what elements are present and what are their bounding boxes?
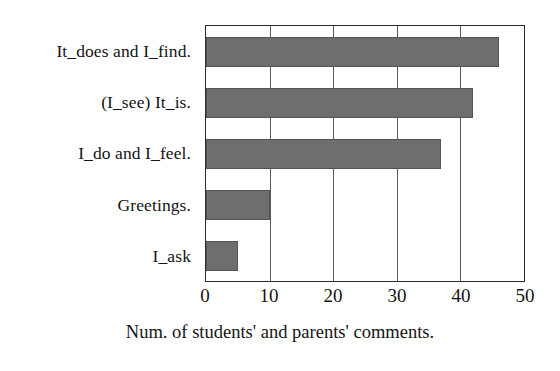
bar-slot — [206, 230, 524, 281]
category-tick: Greetings. — [0, 179, 200, 230]
category-tick: I_ask — [0, 231, 200, 282]
category-tick: It_does and I_find. — [0, 25, 200, 76]
bar-i-do-and-i-feel[interactable] — [206, 139, 441, 169]
category-label-i-see-it-is: (I_see) It_is. — [101, 93, 191, 111]
bar-slot — [206, 179, 524, 230]
value-tick-label: 40 — [452, 285, 471, 307]
value-tick-label: 30 — [388, 285, 407, 307]
category-axis: It_does and I_find. (I_see) It_is. I_do … — [0, 25, 200, 282]
category-label-i-ask: I_ask — [153, 247, 191, 265]
bar-greetings[interactable] — [206, 190, 270, 220]
bars-layer — [206, 26, 524, 281]
category-label-i-do-and-i-feel: I_do and I_feel. — [78, 144, 191, 162]
bar-chart-figure: It_does and I_find. (I_see) It_is. I_do … — [0, 0, 560, 371]
value-tick-label: 0 — [200, 285, 210, 307]
bar-i-see-it-is[interactable] — [206, 88, 473, 118]
value-axis-tick-labels: 01020304050 — [205, 285, 525, 311]
bar-i-ask[interactable] — [206, 241, 238, 271]
bar-slot — [206, 77, 524, 128]
category-tick: I_do and I_feel. — [0, 128, 200, 179]
category-tick: (I_see) It_is. — [0, 76, 200, 127]
plot-area — [205, 25, 525, 282]
value-tick-label: 50 — [516, 285, 535, 307]
bar-slot — [206, 26, 524, 77]
bar-it-does-and-i-find[interactable] — [206, 37, 499, 67]
bar-slot — [206, 128, 524, 179]
value-axis-title: Num. of students' and parents' comments. — [0, 322, 560, 343]
value-tick-label: 20 — [324, 285, 343, 307]
category-label-greetings: Greetings. — [118, 196, 191, 214]
value-tick-label: 10 — [260, 285, 279, 307]
category-label-it-does-and-i-find: It_does and I_find. — [56, 42, 191, 60]
